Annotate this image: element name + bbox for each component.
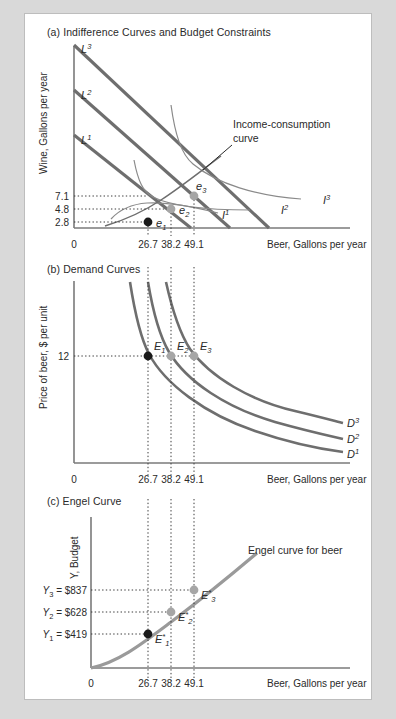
engel-curve-annotation: Engel curve for beer	[248, 544, 343, 556]
panel-b-ytick-12: 12	[58, 351, 70, 362]
budget-line-label-L2: L2	[81, 88, 92, 101]
panel-c-ylabel: Y, Budget	[69, 536, 80, 579]
panel-b-xtick-26.7: 26.7	[138, 474, 158, 485]
svg-text:L1: L1	[81, 133, 91, 146]
panel-a-origin: 0	[71, 239, 77, 250]
income-consumption-annotation-line2: curve	[233, 132, 259, 144]
panel-c-ytick-Y2: Y2 = $628	[43, 607, 88, 621]
demand-marker-E3	[190, 352, 199, 361]
panel-c-xtick-26.7: 26.7	[138, 678, 158, 689]
panel-indifference-curves: (a) Indifference Curves and Budget Const…	[25, 14, 372, 259]
indifference-label-I3: I3	[323, 193, 331, 206]
panel-a-ytick-2.8: 2.8	[55, 217, 69, 228]
demand-marker-E2	[167, 352, 176, 361]
figure-card: (a) Indifference Curves and Budget Const…	[24, 13, 372, 700]
panel-c-ytick-Y3: Y3 = $837	[43, 585, 88, 599]
panel-a-ylabel: Wine, Gallons per year	[38, 72, 49, 174]
budget-line-L2	[74, 90, 230, 228]
panel-c-xtick-49.1: 49.1	[184, 678, 204, 689]
equilibrium-label-e3: e3	[196, 180, 207, 195]
panel-demand-curves: (b) Demand Curves Price of beer, $ per u…	[25, 259, 372, 491]
engel-marker-E1	[144, 630, 153, 639]
demand-label-E3: E3	[200, 340, 212, 355]
equilibrium-marker-e3	[190, 192, 199, 201]
panel-b-xtick-38.2: 38.2	[161, 474, 181, 485]
panel-a-xlabel: Beer, Gallons per year	[267, 239, 367, 250]
equilibrium-label-e1: e1	[156, 217, 166, 232]
panel-a-xtick-26.7: 26.7	[138, 239, 158, 250]
demand-label-D3: D3	[347, 416, 360, 429]
income-consumption-leader-line	[203, 145, 232, 170]
equilibrium-marker-e2	[167, 205, 176, 214]
panel-b-xtick-49.1: 49.1	[184, 474, 204, 485]
svg-text:L3: L3	[81, 42, 92, 55]
panel-c-xlabel: Beer, Gallons per year	[267, 678, 367, 689]
panel-a-ytick-7.1: 7.1	[55, 191, 69, 202]
demand-label-D2: D2	[347, 432, 360, 445]
engel-label-E2: E*2	[178, 610, 193, 626]
panel-b-origin: 0	[71, 474, 77, 485]
demand-curve-D1	[130, 282, 343, 452]
engel-label-E1: E*1	[155, 632, 169, 648]
demand-marker-E1	[144, 352, 153, 361]
panel-a-xtick-49.1: 49.1	[184, 239, 204, 250]
panel-a-xtick-38.2: 38.2	[161, 239, 181, 250]
panel-c-origin: 0	[88, 678, 94, 689]
panel-c-ytick-Y1: Y1 = $419	[43, 629, 88, 643]
indifference-label-I1: I1	[222, 208, 229, 221]
panel-c-xtick-38.2: 38.2	[161, 678, 181, 689]
indifference-label-I2: I2	[281, 203, 289, 216]
income-consumption-annotation-line1: Income-consumption	[233, 118, 331, 130]
engel-marker-E3	[190, 586, 199, 595]
budget-line-L1	[74, 135, 191, 228]
equilibrium-marker-e1	[144, 218, 153, 227]
panel-a-chart: Wine, Gallons per year	[25, 14, 372, 259]
budget-line-label-L3: L3	[81, 42, 92, 55]
panel-b-ylabel: Price of beer, $ per unit	[38, 305, 49, 409]
budget-line-label-L1: L1	[81, 133, 91, 146]
demand-label-D1: D1	[347, 447, 359, 460]
panel-a-ytick-4.8: 4.8	[55, 204, 69, 215]
panel-c-guides	[91, 499, 194, 681]
panel-b-chart: Price of beer, $ per unit 12 0 26.7 38.2…	[25, 259, 372, 491]
panel-engel-curve: (c) Engel Curve Y, Budget Y3 = $837	[25, 491, 372, 700]
panel-b-xlabel: Beer, Gallons per year	[267, 474, 367, 485]
engel-marker-E2	[167, 608, 176, 617]
svg-text:L2: L2	[81, 88, 92, 101]
panel-c-chart: Y, Budget Y3 = $837 Y2 = $628	[25, 491, 372, 700]
